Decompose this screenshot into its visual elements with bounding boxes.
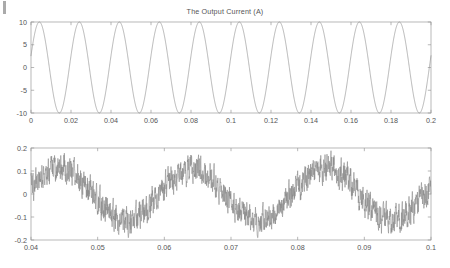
x-tick-label: 0.08 bbox=[184, 116, 198, 125]
x-tick-label: 0.04 bbox=[104, 116, 118, 125]
y-tick-label: -10 bbox=[17, 109, 27, 118]
x-tick-label: 0.18 bbox=[384, 116, 398, 125]
x-tick-label: 0.12 bbox=[264, 116, 278, 125]
y-tick-label: -5 bbox=[21, 86, 27, 95]
x-tick-label: 0.1 bbox=[226, 116, 236, 125]
x-tick-label: 0.06 bbox=[144, 116, 158, 125]
y-tick-label: 5 bbox=[23, 40, 27, 49]
y-tick-label: 0.1 bbox=[17, 167, 27, 176]
x-tick-label: 0.06 bbox=[157, 243, 171, 252]
x-tick-label: 0.16 bbox=[344, 116, 358, 125]
x-tick-label: 0.05 bbox=[91, 243, 105, 252]
x-tick-label: 0 bbox=[29, 116, 33, 125]
figure-output-current: The Output Current (A) 00.020.040.060.08… bbox=[0, 0, 450, 134]
x-tick-label: 0.02 bbox=[64, 116, 78, 125]
data-line-current-tracking-error bbox=[31, 151, 431, 238]
y-tick-label: 0.2 bbox=[17, 144, 27, 153]
y-tick-label: 10 bbox=[19, 18, 27, 27]
y-tick-label: -0.1 bbox=[15, 213, 27, 222]
plot-frame bbox=[31, 22, 431, 113]
x-tick-label: 0.2 bbox=[426, 116, 436, 125]
figure-tracking-error: The Current Tracking Error (A) 0.040.050… bbox=[0, 134, 450, 268]
y-tick-label: 0 bbox=[23, 190, 27, 199]
x-tick-label: 0.1 bbox=[426, 243, 436, 252]
y-tick-label: -0.2 bbox=[15, 236, 27, 245]
x-tick-label: 0.09 bbox=[357, 243, 371, 252]
x-tick-label: 0.07 bbox=[224, 243, 238, 252]
x-tick-label: 0.08 bbox=[291, 243, 305, 252]
x-tick-label: 0.14 bbox=[304, 116, 318, 125]
plot-canvas-output-current: 00.020.040.060.080.10.120.140.160.180.2-… bbox=[0, 0, 450, 134]
y-tick-label: 0 bbox=[23, 63, 27, 72]
plot-canvas-tracking-error: 0.040.050.060.070.080.090.1-0.2-0.100.10… bbox=[0, 134, 450, 268]
data-line-output-current bbox=[31, 22, 431, 113]
